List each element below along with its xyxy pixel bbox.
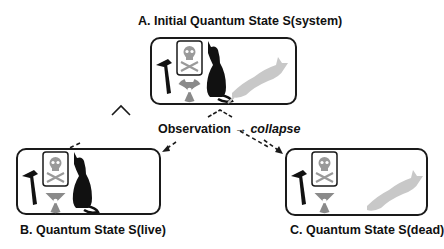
- collapse-text: collapse: [250, 122, 300, 136]
- arrow-symbol: →: [234, 122, 247, 136]
- state-b-illustration: [16, 148, 161, 215]
- poison-skull-icon: [312, 152, 337, 186]
- radiation-icon: [315, 193, 335, 213]
- dead-cat-icon: [367, 170, 423, 211]
- hammer-icon: [22, 170, 38, 205]
- state-c-illustration: [285, 148, 428, 216]
- hammer-icon: [291, 170, 307, 205]
- radiation-icon: [46, 193, 66, 213]
- observation-text: Observation: [158, 122, 231, 136]
- state-c-title: C. Quantum State S(dead): [290, 223, 444, 237]
- poison-skull-icon: [43, 152, 68, 186]
- state-b-title: B. Quantum State S(live): [20, 223, 166, 237]
- observation-label: Observation → collapse: [158, 122, 300, 136]
- live-cat-icon: [73, 152, 98, 213]
